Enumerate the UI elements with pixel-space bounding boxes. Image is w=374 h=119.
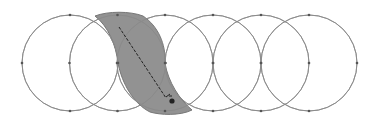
anchor-node[interactable] xyxy=(21,62,24,65)
anchor-node[interactable] xyxy=(164,110,167,113)
anchor-node[interactable] xyxy=(356,62,359,65)
anchor-node[interactable] xyxy=(308,110,311,113)
circle-group xyxy=(22,15,357,111)
anchor-node[interactable] xyxy=(116,62,119,65)
anchor-node[interactable] xyxy=(260,110,263,113)
anchor-node[interactable] xyxy=(164,14,167,17)
anchor-node[interactable] xyxy=(260,62,263,65)
anchor-node[interactable] xyxy=(308,62,311,65)
selected-crescent-shape[interactable] xyxy=(95,12,192,114)
anchor-node[interactable] xyxy=(260,14,263,17)
anchor-node[interactable] xyxy=(212,110,215,113)
anchor-node[interactable] xyxy=(69,110,72,113)
drawing-canvas[interactable] xyxy=(0,0,374,119)
anchor-node[interactable] xyxy=(212,14,215,17)
anchor-node[interactable] xyxy=(212,62,215,65)
anchor-node[interactable] xyxy=(68,62,71,65)
anchor-node[interactable] xyxy=(116,110,119,113)
anchor-node[interactable] xyxy=(308,14,311,17)
anchor-node[interactable] xyxy=(69,14,72,17)
anchor-node[interactable] xyxy=(116,14,119,17)
anchor-node[interactable] xyxy=(164,62,167,65)
circle-outline-overlay xyxy=(21,14,359,113)
